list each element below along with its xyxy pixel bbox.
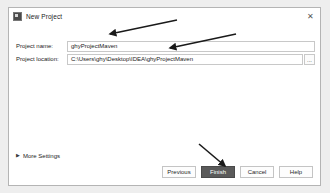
dialog-footer: Previous Finish Cancel Help: [9, 159, 320, 185]
cancel-button[interactable]: Cancel: [240, 166, 274, 178]
chevron-right-icon: ▶: [16, 153, 20, 158]
browse-button[interactable]: ...: [304, 54, 315, 65]
project-name-label: Project name:: [9, 43, 67, 49]
dialog-titlebar: New Project ✕: [9, 8, 320, 25]
more-settings-label: More Settings: [23, 153, 60, 159]
new-project-dialog: New Project ✕ Project name: ghyProjectMa…: [8, 7, 321, 186]
project-name-input[interactable]: ghyProjectMaven: [67, 41, 315, 52]
help-button[interactable]: Help: [279, 166, 313, 178]
finish-button[interactable]: Finish: [201, 166, 235, 178]
project-location-row: Project location: C:\Users\ghy\Desktop\I…: [9, 53, 320, 65]
app-icon: [13, 12, 22, 21]
project-location-input[interactable]: C:\Users\ghy\Desktop\IDEA\ghyProjectMave…: [67, 54, 303, 65]
project-location-label: Project location:: [9, 56, 67, 62]
previous-button[interactable]: Previous: [162, 166, 196, 178]
project-name-row: Project name: ghyProjectMaven: [9, 40, 320, 52]
dialog-content: Project name: ghyProjectMaven Project lo…: [9, 25, 320, 185]
close-icon[interactable]: ✕: [305, 11, 316, 22]
dialog-title: New Project: [26, 13, 62, 20]
